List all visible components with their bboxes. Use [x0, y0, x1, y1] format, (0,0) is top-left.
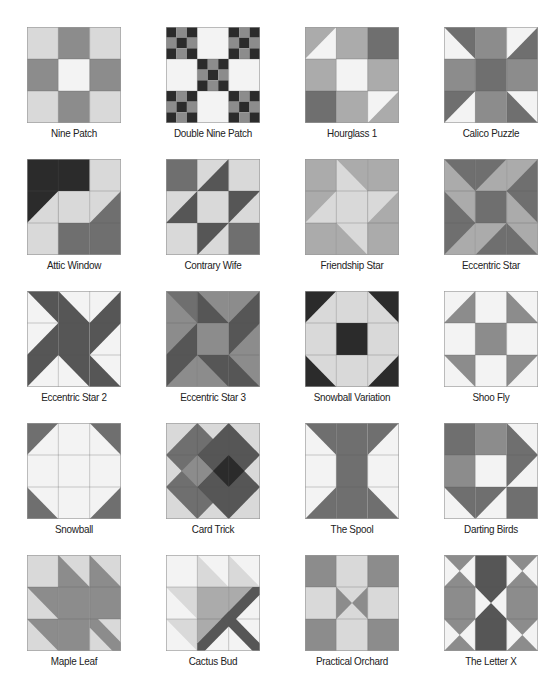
block-label-calico-puzzle: Calico Puzzle [431, 127, 551, 139]
block-label-hourglass-1: Hourglass 1 [292, 127, 412, 139]
block-label-maple-leaf: Maple Leaf [14, 655, 134, 667]
block-label-contrary-wife: Contrary Wife [153, 259, 273, 271]
block-label-eccentric-star: Eccentric Star [431, 259, 551, 271]
quilt-block-nine-patch [27, 27, 121, 123]
quilt-block-darting-birds [444, 423, 538, 519]
quilt-block-calico-puzzle [444, 27, 538, 123]
quilt-block-maple-leaf [27, 555, 121, 651]
quilt-block-eccentric-star-2 [27, 291, 121, 387]
quilt-block-contrary-wife [166, 159, 260, 255]
quilt-block-card-trick [166, 423, 260, 519]
quilt-block-snowball [27, 423, 121, 519]
quilt-block-hourglass-1 [305, 27, 399, 123]
quilt-block-eccentric-star-3 [166, 291, 260, 387]
block-label-card-trick: Card Trick [153, 523, 273, 535]
block-label-snowball: Snowball [14, 523, 134, 535]
block-label-practical-orchard: Practical Orchard [292, 655, 412, 667]
block-label-darting-birds: Darting Birds [431, 523, 551, 535]
quilt-block-attic-window [27, 159, 121, 255]
block-label-friendship-star: Friendship Star [292, 259, 412, 271]
block-label-the-spool: The Spool [292, 523, 412, 535]
quilt-block-practical-orchard [305, 555, 399, 651]
block-label-the-letter-x: The Letter X [431, 655, 551, 667]
block-label-double-nine-patch: Double Nine Patch [153, 127, 273, 139]
quilt-block-cactus-bud [166, 555, 260, 651]
quilt-block-snowball-variation [305, 291, 399, 387]
block-label-eccentric-star-3: Eccentric Star 3 [153, 391, 273, 403]
quilt-block-shoo-fly [444, 291, 538, 387]
quilt-block-eccentric-star [444, 159, 538, 255]
block-label-attic-window: Attic Window [14, 259, 134, 271]
block-label-snowball-variation: Snowball Variation [292, 391, 412, 403]
quilt-block-the-letter-x [444, 555, 538, 651]
quilt-block-double-nine-patch [166, 27, 260, 123]
quilt-block-the-spool [305, 423, 399, 519]
block-label-nine-patch: Nine Patch [14, 127, 134, 139]
block-label-cactus-bud: Cactus Bud [153, 655, 273, 667]
block-label-shoo-fly: Shoo Fly [431, 391, 551, 403]
block-label-eccentric-star-2: Eccentric Star 2 [14, 391, 134, 403]
quilt-block-friendship-star [305, 159, 399, 255]
